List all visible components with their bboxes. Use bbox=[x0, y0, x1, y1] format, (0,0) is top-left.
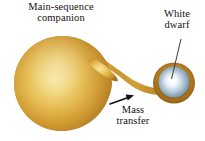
white-dwarf-core-glow bbox=[161, 69, 185, 93]
label-white-dwarf: White dwarf bbox=[152, 8, 202, 31]
flow-direction-arrow-icon bbox=[110, 95, 134, 104]
label-white-dwarf-line2: dwarf bbox=[152, 19, 202, 30]
label-main-sequence-companion: Main-sequence companion bbox=[8, 1, 114, 24]
figure-canvas: Main-sequence companion White dwarf Mass… bbox=[0, 0, 205, 141]
companion-star-specular bbox=[14, 36, 111, 131]
label-mass-transfer: Mass transfer bbox=[104, 104, 162, 127]
label-mass-transfer-line1: Mass bbox=[122, 104, 145, 115]
label-companion-line2: companion bbox=[8, 12, 114, 23]
label-companion-line1: Main-sequence bbox=[28, 1, 93, 12]
label-white-dwarf-line1: White bbox=[164, 8, 190, 19]
label-mass-transfer-line2: transfer bbox=[104, 115, 162, 126]
